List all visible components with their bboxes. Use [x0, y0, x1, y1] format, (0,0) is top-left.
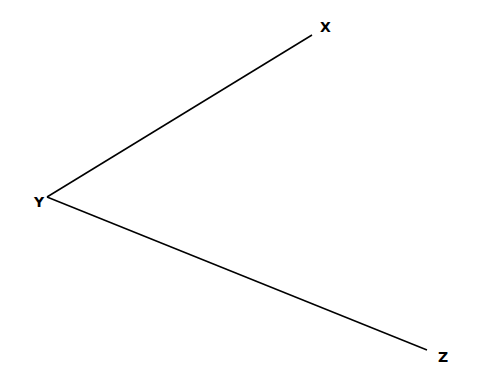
point-label-x: X [320, 19, 331, 35]
segment-yz [47, 197, 427, 350]
point-label-z: Z [438, 349, 448, 365]
segment-yx [47, 35, 312, 197]
vertex-label-y: Y [33, 194, 45, 210]
angle-diagram: X Y Z [0, 0, 482, 386]
